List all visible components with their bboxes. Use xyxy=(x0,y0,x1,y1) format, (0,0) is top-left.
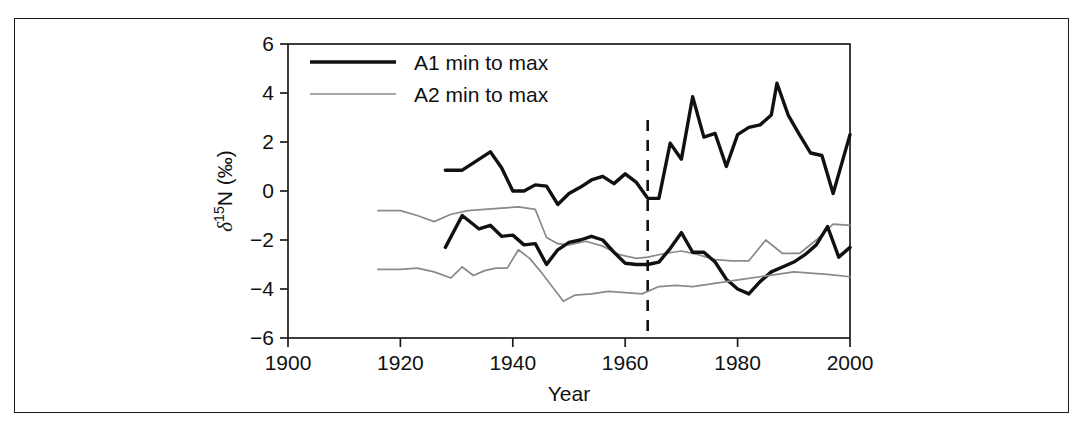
y-axis-title: δ15N (‰) xyxy=(211,150,237,231)
plot-area-box xyxy=(288,44,850,338)
figure-root: −6−4−20246190019201940196019802000Yearδ1… xyxy=(0,0,1083,433)
delta15n-time-series-chart: −6−4−20246190019201940196019802000Yearδ1… xyxy=(0,0,1083,433)
y-axis-tick-label: 2 xyxy=(262,130,274,153)
x-axis-tick-label: 1940 xyxy=(489,351,536,374)
series-line-a2-min xyxy=(378,250,850,301)
x-axis-tick-label: 1920 xyxy=(377,351,424,374)
y-axis-tick-label: 6 xyxy=(262,32,274,55)
x-axis-tick-label: 1980 xyxy=(714,351,761,374)
x-axis-tick-label: 2000 xyxy=(827,351,874,374)
y-axis-tick-label: −4 xyxy=(250,277,274,300)
y-axis-tick-label: −2 xyxy=(250,228,274,251)
svg-text:δ15N (‰): δ15N (‰) xyxy=(211,150,237,231)
x-axis-tick-label: 1900 xyxy=(265,351,312,374)
y-axis-tick-label: 4 xyxy=(262,81,274,104)
legend-label-2: A2 min to max xyxy=(414,83,549,106)
x-axis-tick-label: 1960 xyxy=(602,351,649,374)
y-axis-tick-label: 0 xyxy=(262,179,274,202)
x-axis-title: Year xyxy=(548,382,590,405)
y-axis-tick-label: −6 xyxy=(250,326,274,349)
legend-label-1: A1 min to max xyxy=(414,51,549,74)
